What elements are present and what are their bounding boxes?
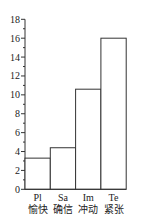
y-tick-label: 18 (10, 14, 20, 25)
y-axis: 024681012141618 (10, 14, 25, 195)
x-category-label: Im (83, 192, 94, 203)
y-tick-label: 12 (10, 70, 20, 81)
bar-chart: 024681012141618 Pl愉快Sa确信Im冲动Te紧张 (0, 0, 141, 224)
bar-te (101, 38, 126, 189)
y-tick-label: 14 (10, 52, 20, 63)
x-category-label: Pl (33, 192, 42, 203)
y-tick-label: 0 (15, 184, 20, 195)
y-tick-label: 16 (10, 33, 20, 44)
x-axis-labels: Pl愉快Sa确信Im冲动Te紧张 (28, 192, 124, 215)
x-category-sublabel: 愉快 (28, 203, 48, 215)
bar-im (76, 89, 101, 189)
x-category-label: Sa (58, 192, 69, 203)
x-category-sublabel: 紧张 (104, 204, 124, 215)
x-category-label: Te (109, 192, 119, 203)
y-tick-label: 6 (15, 127, 20, 138)
y-tick-label: 2 (15, 165, 20, 176)
bar-pl (25, 158, 50, 189)
x-category-sublabel: 确信 (53, 203, 73, 215)
bar-sa (50, 148, 75, 190)
x-category-sublabel: 冲动 (78, 203, 98, 215)
y-tick-label: 4 (15, 146, 20, 157)
bars (25, 38, 126, 189)
y-tick-label: 10 (10, 89, 20, 100)
y-tick-label: 8 (15, 108, 20, 119)
